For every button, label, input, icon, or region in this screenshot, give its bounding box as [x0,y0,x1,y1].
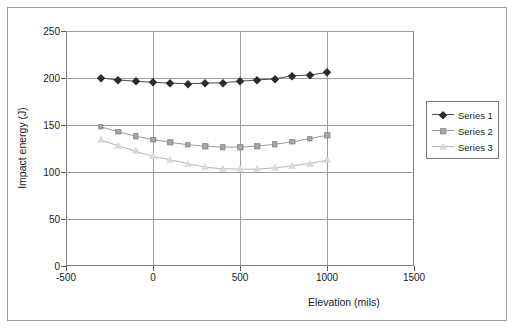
data-point [98,124,104,130]
legend-label: Series 1 [458,110,493,121]
y-tick-label: 250 [43,26,60,37]
x-tick-label: 500 [232,272,249,283]
legend-marker-icon [432,125,454,137]
x-tick-label: -500 [56,272,76,283]
data-point [166,156,174,163]
y-tick-label: 150 [43,120,60,131]
data-point [168,140,174,146]
data-point [253,165,261,172]
data-point [306,159,314,166]
x-axis-title: Elevation (mils) [308,296,380,308]
data-point [185,142,191,148]
x-tick-label: 1500 [403,272,425,283]
data-point [115,129,121,135]
y-axis-title: Impact energy (J) [16,107,28,189]
x-tick-label: 1000 [316,272,338,283]
legend-marker-icon [432,109,454,121]
x-tick-mark [66,266,67,271]
data-point [201,163,209,170]
x-tick-mark [240,266,241,271]
chart-frame: Impact energy (J) Elevation (mils) 05010… [7,7,507,321]
y-tick-label: 200 [43,73,60,84]
data-point [133,134,139,140]
legend-marker-icon [432,141,454,153]
data-point [220,144,226,150]
data-point [237,144,243,150]
x-tick-label: 0 [150,272,156,283]
data-point [132,147,140,154]
legend-item-1[interactable]: Series 1 [427,107,498,123]
data-point [184,159,192,166]
x-tick-mark [153,266,154,271]
data-point [219,165,227,172]
legend-item-3[interactable]: Series 3 [427,139,498,155]
data-point [150,137,156,143]
data-point [236,165,244,172]
data-point [255,143,261,149]
data-point [288,162,296,169]
chart-legend: Series 1Series 2Series 3 [426,101,499,159]
legend-item-2[interactable]: Series 2 [427,123,498,139]
data-point [272,142,278,148]
y-tick-label: 50 [49,214,60,225]
plot-area: 050100150200250 -500050010001500 [66,31,414,266]
data-point [202,143,208,149]
legend-label: Series 3 [458,142,493,153]
x-tick-mark [414,266,415,271]
y-tick-label: 0 [54,261,60,272]
y-tick-label: 100 [43,167,60,178]
data-point [289,139,295,145]
data-point [149,152,157,159]
legend-label: Series 2 [458,126,493,137]
data-point [323,156,331,163]
data-point [271,164,279,171]
data-point [114,141,122,148]
data-point [97,136,105,143]
data-point [307,136,313,142]
data-point [324,133,330,139]
x-tick-mark [327,266,328,271]
